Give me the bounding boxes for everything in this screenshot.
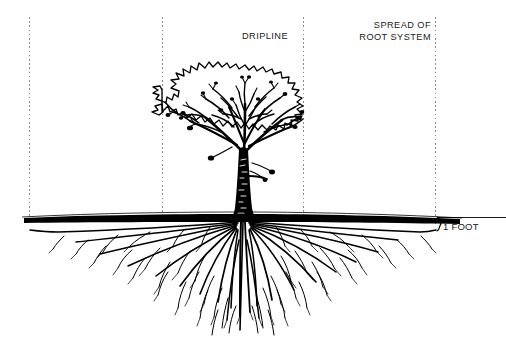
leaf-blob [247,75,251,78]
one-foot-depth-label: 1 FOOT [443,221,479,233]
twig-10 [236,86,239,92]
leaf-blob [219,108,224,112]
leaf-blob [269,170,275,175]
trunk-body [230,147,258,220]
twig-low-right [252,163,272,172]
leaf-blob [292,125,297,129]
leaf-blob [180,111,185,115]
branch-main-right [245,120,282,152]
spread-label-line-1: SPREAD OF [359,19,431,31]
leaf-blob [300,110,305,114]
dripline-label: DRIPLINE [242,30,288,42]
leaf-blob [240,75,244,78]
leaf-blob [269,80,273,83]
canopy-left-tuft [153,86,162,101]
trunk-stub-branch [249,176,267,179]
root-system [30,222,436,335]
roots-secondary-right [252,227,432,335]
diagram-artwork [0,0,506,357]
roots-lateral-right [249,222,436,306]
spread-label-line-2: ROOT SYSTEM [359,31,431,43]
leaf-blob [230,97,234,101]
branch-c5 [244,83,245,104]
twig-7 [209,84,213,89]
twig-13 [254,88,257,94]
twig-low-left [211,147,232,158]
leaf-blob [179,116,183,120]
leaf-blob [214,81,218,84]
soil-band [24,214,460,224]
twig-20 [267,110,272,114]
leaf-blob [187,126,193,131]
leaf-blob [256,97,260,101]
leaf-blob [283,92,288,96]
leaf-blob [166,113,171,117]
leaf-blob [208,155,214,160]
leaf-blob [201,91,205,94]
roots-lateral-left [30,222,238,308]
tree-trunk [230,147,267,220]
twig-15 [274,83,278,88]
twig-18 [295,104,300,107]
tree-root-diagram: DRIPLINE SPREAD OF ROOT SYSTEM 1 FOOT [0,0,506,357]
leaf-blob [296,116,302,121]
spread-of-root-system-label: SPREAD OF ROOT SYSTEM [359,19,431,44]
branch-c4 [245,94,254,112]
guide-lines [30,17,436,226]
